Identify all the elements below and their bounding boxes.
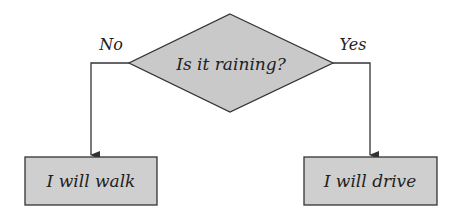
no-branch-connector: [91, 63, 129, 155]
drive-outcome-text: I will drive: [323, 171, 417, 191]
yes-branch-connector: [333, 63, 370, 155]
decision-text: Is it raining?: [175, 54, 286, 74]
walk-outcome-text: I will walk: [46, 171, 136, 191]
flowchart: Is it raining? No Yes I will walk I will…: [0, 0, 461, 222]
no-label: No: [98, 35, 123, 54]
yes-label: Yes: [340, 35, 367, 54]
